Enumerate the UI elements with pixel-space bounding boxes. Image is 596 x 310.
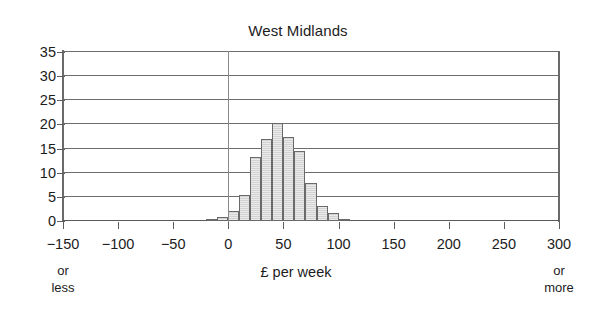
x-axis-right-note-line2: more bbox=[544, 280, 574, 295]
x-tick-label-250: 250 bbox=[474, 236, 534, 252]
histogram-bars bbox=[63, 52, 559, 221]
x-tick-mark-50 bbox=[283, 222, 284, 229]
y-tick-mark-20 bbox=[57, 124, 65, 125]
x-tick-mark-0 bbox=[228, 222, 229, 229]
chart-title: West Midlands bbox=[0, 22, 596, 39]
x-axis-left-note: or less bbox=[23, 262, 103, 296]
x-tick-mark--150 bbox=[63, 222, 64, 229]
x-tick-label-50: 50 bbox=[253, 236, 313, 252]
x-tick-label-100: 100 bbox=[309, 236, 369, 252]
y-tick-mark-30 bbox=[57, 76, 65, 77]
y-tick-label-10: 10 bbox=[22, 166, 56, 181]
histogram-bar bbox=[250, 157, 261, 221]
x-axis-right-note-line1: or bbox=[553, 263, 565, 278]
histogram-bar bbox=[228, 211, 239, 221]
x-tick-mark-200 bbox=[449, 222, 450, 229]
x-tick-label-200: 200 bbox=[419, 236, 479, 252]
histogram-bar bbox=[328, 213, 339, 221]
x-axis-left-note-line1: or bbox=[57, 263, 69, 278]
x-axis-left-note-line2: less bbox=[51, 280, 74, 295]
x-tick-label-150: 150 bbox=[364, 236, 424, 252]
histogram-bar bbox=[317, 206, 328, 221]
y-tick-label-30: 30 bbox=[22, 69, 56, 84]
x-tick-label-300: 300 bbox=[529, 236, 589, 252]
x-tick-mark-100 bbox=[339, 222, 340, 229]
histogram-bar bbox=[294, 151, 305, 221]
y-tick-mark-25 bbox=[57, 100, 65, 101]
histogram-bar bbox=[283, 137, 294, 221]
histogram-bar bbox=[339, 219, 350, 221]
histogram-bar bbox=[206, 219, 217, 221]
y-tick-mark-5 bbox=[57, 197, 65, 198]
x-tick-mark-250 bbox=[504, 222, 505, 229]
x-tick-label--50: −50 bbox=[143, 236, 203, 252]
y-tick-label-35: 35 bbox=[22, 45, 56, 60]
x-tick-mark--100 bbox=[118, 222, 119, 229]
y-tick-label-5: 5 bbox=[22, 190, 56, 205]
y-tick-label-20: 20 bbox=[22, 117, 56, 132]
y-tick-label-25: 25 bbox=[22, 93, 56, 108]
x-axis-title: £ per week bbox=[196, 264, 396, 280]
y-tick-mark-35 bbox=[57, 52, 65, 53]
chart-figure: West Midlands 05101520253035 −150−100−50… bbox=[0, 0, 596, 310]
x-tick-mark-300 bbox=[559, 222, 560, 229]
y-tick-mark-10 bbox=[57, 173, 65, 174]
x-tick-label--150: −150 bbox=[33, 236, 93, 252]
x-axis-right-note: or more bbox=[519, 262, 596, 296]
plot-area bbox=[63, 52, 559, 221]
y-tick-label-0: 0 bbox=[22, 214, 56, 229]
zero-reference-line bbox=[228, 51, 229, 222]
histogram-bar bbox=[239, 195, 250, 221]
x-tick-label--100: −100 bbox=[88, 236, 148, 252]
histogram-bar bbox=[305, 183, 316, 221]
x-tick-label-0: 0 bbox=[198, 236, 258, 252]
histogram-bar bbox=[261, 139, 272, 221]
x-tick-mark-150 bbox=[394, 222, 395, 229]
histogram-bar bbox=[272, 123, 283, 221]
histogram-bar bbox=[217, 217, 228, 221]
x-tick-mark--50 bbox=[173, 222, 174, 229]
y-tick-label-15: 15 bbox=[22, 142, 56, 157]
y-tick-mark-15 bbox=[57, 149, 65, 150]
